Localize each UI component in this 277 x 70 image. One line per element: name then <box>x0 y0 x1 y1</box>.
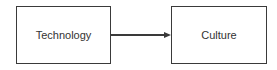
arrowhead-icon <box>164 32 171 38</box>
culture-node: Culture <box>171 6 267 64</box>
culture-label: Culture <box>201 29 236 41</box>
